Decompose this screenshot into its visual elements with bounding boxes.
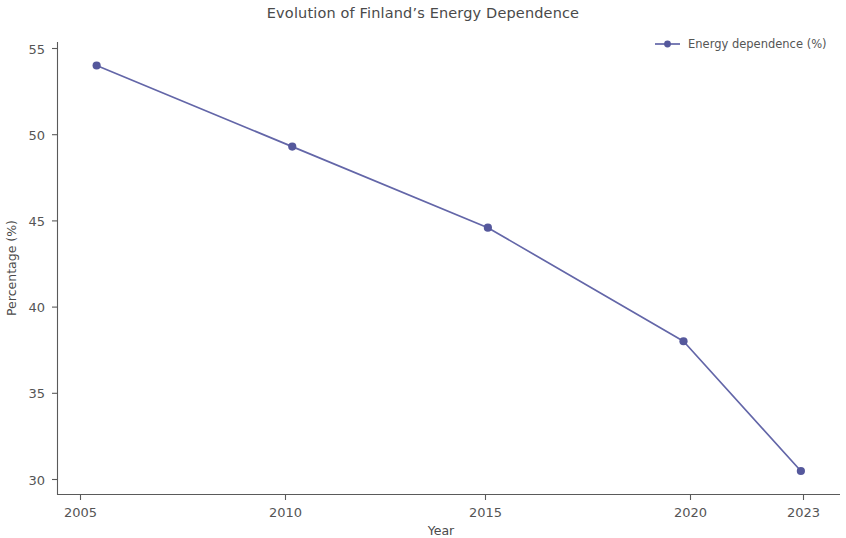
y-tick-label: 45: [28, 214, 45, 229]
y-tick-label: 50: [28, 128, 45, 143]
x-axis-tickmarks: [81, 495, 804, 501]
line-chart-plot-area: 55 50 45 40 35 30 2005 2010 2015 2020 20…: [0, 0, 846, 538]
x-tick-label: 2010: [269, 505, 302, 520]
data-point-marker: [288, 143, 296, 151]
data-point-marker: [484, 224, 492, 232]
data-series-energy-dependence: [93, 61, 805, 475]
chart-legend: Energy dependence (%): [655, 37, 827, 51]
x-tick-label: 2023: [787, 505, 820, 520]
data-point-marker: [797, 467, 805, 475]
x-axis-tick-labels: 2005 2010 2015 2020 2023: [64, 505, 820, 520]
y-tick-label: 40: [28, 300, 45, 315]
x-tick-label: 2005: [64, 505, 97, 520]
series-markers: [93, 61, 805, 475]
x-tick-label: 2020: [674, 505, 707, 520]
y-tick-label: 30: [28, 473, 45, 488]
x-axis-title: Year: [427, 523, 455, 538]
axis-spines: [58, 42, 841, 495]
y-tick-label: 55: [28, 42, 45, 57]
y-tick-label: 35: [28, 386, 45, 401]
series-line: [97, 66, 801, 471]
y-axis-tick-labels: 55 50 45 40 35 30: [28, 42, 45, 488]
legend-marker-icon: [664, 41, 671, 48]
data-point-marker: [679, 337, 687, 345]
chart-figure: Evolution of Finland’s Energy Dependence…: [0, 0, 846, 538]
data-point-marker: [93, 61, 101, 69]
y-axis-title: Percentage (%): [4, 220, 19, 316]
x-tick-label: 2015: [469, 505, 502, 520]
y-axis-tickmarks: [52, 49, 58, 480]
legend-entry-label: Energy dependence (%): [688, 37, 827, 51]
